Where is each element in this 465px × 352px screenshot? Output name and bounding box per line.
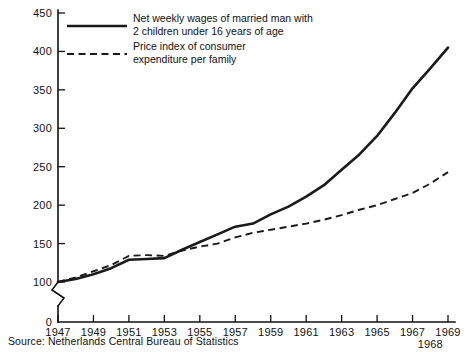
y-tick-label-300: 300 — [33, 122, 52, 134]
legend-label-0-line2: 2 children under 16 years of age — [133, 25, 284, 37]
legend: Net weekly wages of married man with 2 c… — [67, 12, 313, 65]
x-tick-label-1959: 1959 — [258, 326, 283, 338]
y-tick-label-400: 400 — [33, 45, 52, 57]
x-tick-label-1968: 1968 — [418, 338, 443, 350]
y-origin-label: 0 — [46, 316, 52, 328]
y-tick-label-250: 250 — [33, 161, 52, 173]
chart-container: 100150200250300350400450 194719491951195… — [0, 0, 465, 352]
x-tick-label-1961: 1961 — [294, 326, 319, 338]
y-tick-label-350: 350 — [33, 84, 52, 96]
x-tick-label-1963: 1963 — [329, 326, 354, 338]
legend-label-1-line2: expenditure per family — [133, 53, 237, 65]
y-tick-label-group: 100150200250300350400450 — [33, 7, 52, 288]
y-tick-label-100: 100 — [33, 276, 52, 288]
line-chart: 100150200250300350400450 194719491951195… — [0, 0, 465, 352]
source-note: Source: Netherlands Central Bureau of St… — [8, 335, 239, 347]
y-axis-break-zigzag — [52, 282, 64, 306]
x-tick-label-1969: 1969 — [435, 326, 460, 338]
y-tick-label-200: 200 — [33, 199, 52, 211]
legend-label-1-line1: Price index of consumer — [133, 40, 246, 52]
series-line-net-weekly-wages — [58, 48, 448, 282]
legend-label-0-line1: Net weekly wages of married man with — [133, 12, 313, 24]
x-tick-label-1965: 1965 — [364, 326, 389, 338]
y-tick-label-150: 150 — [33, 238, 52, 250]
y-tick-label-450: 450 — [33, 7, 52, 19]
x-tick-group — [58, 315, 448, 322]
y-tick-group — [58, 13, 65, 282]
x-tick-label-1967: 1967 — [400, 326, 425, 338]
